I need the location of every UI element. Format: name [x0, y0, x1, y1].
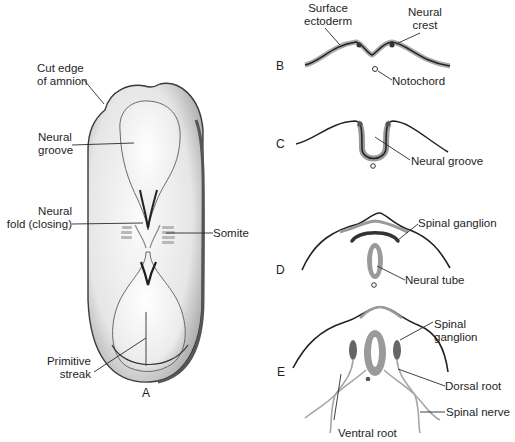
panel-label-d: D: [276, 263, 285, 277]
label-line-1: Surface: [298, 2, 358, 15]
label-line-1: Neural: [7, 205, 72, 218]
label-primitive-streak: Primitive streak: [47, 355, 91, 381]
panel-label-b: B: [276, 59, 284, 73]
label-ventral-root: Ventral root: [338, 427, 397, 440]
label-line-2: groove: [38, 144, 73, 157]
label-line-2: streak: [47, 368, 91, 381]
label-line-2: ectoderm: [298, 15, 358, 28]
label-cut-edge-of-amnion: Cut edge of amnion: [37, 62, 88, 88]
label-line-1: Cut edge: [37, 62, 88, 75]
label-line-2: crest: [405, 19, 445, 32]
label-line-2: of amnion: [37, 75, 88, 88]
label-surface-ectoderm: Surface ectoderm: [298, 2, 358, 28]
label-line-1: Spinal: [434, 318, 477, 331]
section-b: [305, 42, 450, 72]
label-line-2: ganglion: [434, 331, 477, 344]
label-spinal-nerve: Spinal nerve: [446, 406, 510, 419]
panel-label-c: C: [276, 137, 285, 151]
panel-label-e: E: [277, 365, 285, 379]
label-line-1: Primitive: [47, 355, 91, 368]
label-line-1: Neural: [405, 6, 445, 19]
label-neural-crest: Neural crest: [405, 6, 445, 32]
section-e: [293, 307, 448, 433]
label-notochord: Notochord: [392, 75, 445, 88]
label-spinal-ganglion-d: Spinal ganglion: [418, 217, 497, 230]
label-line-2: fold (closing): [7, 218, 72, 231]
label-line-1: Neural: [38, 131, 73, 144]
panel-label-a: A: [142, 386, 150, 400]
label-neural-groove-c: Neural groove: [411, 155, 483, 168]
label-neural-fold-closing: Neural fold (closing): [7, 205, 72, 231]
label-spinal-ganglion-e: Spinal ganglion: [434, 318, 477, 344]
label-neural-groove-a: Neural groove: [38, 131, 73, 157]
label-neural-tube: Neural tube: [405, 274, 464, 287]
label-somite: Somite: [213, 227, 249, 240]
label-dorsal-root: Dorsal root: [445, 380, 501, 393]
